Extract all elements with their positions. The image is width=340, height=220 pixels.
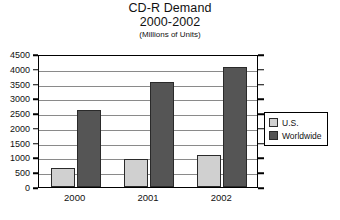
y-tick-mark-right — [258, 54, 264, 56]
y-tick-label: 1500 — [10, 139, 30, 149]
y-tick-label: 3000 — [10, 94, 30, 104]
x-tick-label-2002: 2002 — [211, 192, 232, 203]
x-tick-label-2001: 2001 — [137, 192, 158, 203]
chart-title: CD-R Demand — [0, 2, 340, 15]
bar-2001-worldwide — [150, 82, 174, 187]
y-tick-mark-right — [258, 99, 264, 101]
x-tick-label-2000: 2000 — [64, 192, 85, 203]
y-tick-mark-right — [258, 158, 264, 160]
bar-group-2002 — [186, 56, 259, 187]
legend-item: U.S. — [269, 116, 322, 129]
legend-label: U.S. — [282, 118, 299, 128]
bar-group-2001 — [112, 56, 185, 187]
bar-2002-worldwide — [223, 67, 247, 187]
y-tick-label: 2500 — [10, 109, 30, 119]
plot-area — [38, 55, 258, 188]
bar-2002-us — [197, 155, 221, 188]
y-tick-label: 3500 — [10, 80, 30, 90]
y-tick-label: 4500 — [10, 50, 30, 60]
chart-legend: U.S.Worldwide — [264, 112, 328, 146]
x-axis: 200020012002 — [38, 192, 258, 212]
y-tick-mark-right — [258, 69, 264, 71]
y-tick-label: 0 — [25, 183, 30, 193]
y-tick-label: 4000 — [10, 65, 30, 75]
y-tick-label: 2000 — [10, 124, 30, 134]
y-tick-mark-right — [258, 84, 264, 86]
chart-page: CD-R Demand 2000-2002 (Millions of Units… — [0, 0, 340, 220]
y-tick-mark-right — [258, 172, 264, 174]
bar-group-2000 — [39, 56, 112, 187]
legend-item: Worldwide — [269, 129, 322, 142]
y-tick-label: 500 — [15, 168, 30, 178]
y-axis: 050010001500200025003000350040004500 — [0, 55, 38, 188]
y-tick-label: 1000 — [10, 153, 30, 163]
legend-swatch-icon — [269, 131, 278, 140]
bar-2001-us — [124, 159, 148, 187]
bars-layer — [39, 56, 257, 187]
legend-label: Worldwide — [282, 131, 322, 141]
y-tick-mark-right — [258, 187, 264, 189]
chart-subtitle: 2000-2002 — [0, 16, 340, 29]
bar-2000-worldwide — [77, 110, 101, 187]
chart-title-block: CD-R Demand 2000-2002 (Millions of Units… — [0, 2, 340, 40]
chart-units-note: (Millions of Units) — [0, 31, 340, 39]
legend-swatch-icon — [269, 118, 278, 127]
bar-2000-us — [51, 168, 75, 187]
